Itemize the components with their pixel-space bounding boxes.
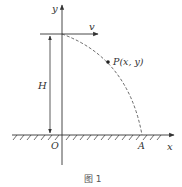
y-axis-label: y bbox=[51, 3, 58, 14]
point-a-label: A bbox=[137, 140, 145, 151]
x-axis-label: x bbox=[167, 141, 173, 152]
point-p-label: P(x, y) bbox=[112, 56, 144, 67]
velocity-label: v bbox=[89, 21, 95, 32]
point-p-dot bbox=[106, 60, 110, 64]
origin-label: O bbox=[51, 140, 59, 151]
projectile-diagram: y v H P(x, y) O A x 图 1 bbox=[0, 0, 182, 187]
height-label: H bbox=[37, 80, 47, 91]
trajectory-curve bbox=[62, 34, 142, 135]
figure-caption: 图 1 bbox=[84, 174, 102, 184]
